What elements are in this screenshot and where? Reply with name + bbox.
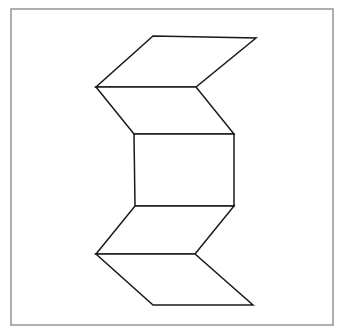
face-center-rectangle bbox=[134, 134, 234, 206]
figure-canvas bbox=[0, 0, 342, 332]
line-drawing-svg bbox=[0, 0, 342, 332]
